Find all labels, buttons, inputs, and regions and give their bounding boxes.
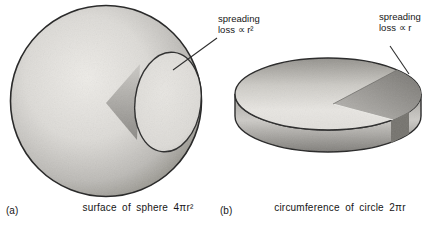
- callout-spherical-loss-line1: spreading: [218, 13, 260, 24]
- diagram-canvas: [0, 0, 426, 228]
- panel-a-caption: surface of sphere 4πr²: [46, 202, 230, 213]
- panel-b-letter: (b): [220, 205, 232, 216]
- disk-grain-texture: [233, 56, 423, 154]
- callout-spherical-loss-line2: loss ∝ r²: [218, 24, 260, 35]
- panel-b-caption: circumference of circle 2πr: [260, 202, 420, 213]
- callout-cylindrical-loss-line2: loss ∝ r: [379, 22, 421, 33]
- panel-a-letter: (a): [6, 205, 18, 216]
- figure-spreading-loss: spreading loss ∝ r² spreading loss ∝ r (…: [0, 0, 426, 228]
- callout-cylindrical-loss: spreading loss ∝ r: [379, 11, 421, 33]
- callout-cylindrical-loss-line1: spreading: [379, 11, 421, 22]
- callout-spherical-loss: spreading loss ∝ r²: [218, 13, 260, 35]
